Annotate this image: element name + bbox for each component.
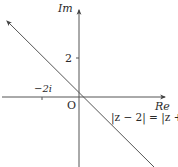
locus-line [7, 21, 154, 167]
imaginary-axis-label: Im [58, 3, 73, 14]
real-tick-label: −2i [34, 84, 52, 94]
diagram-canvas [0, 0, 178, 167]
imaginary-tick-label: 2 [65, 53, 72, 64]
origin-label: O [67, 100, 76, 111]
locus-equation-label: |z − 2| = |z + 2i| [111, 112, 178, 123]
